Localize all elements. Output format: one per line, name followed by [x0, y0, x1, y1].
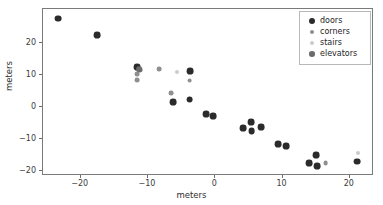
data-point: [275, 140, 282, 147]
data-point: [168, 91, 173, 96]
data-point: [313, 151, 320, 158]
legend-item-elevators[interactable]: elevators: [304, 49, 365, 59]
data-point: [186, 96, 193, 103]
data-point: [313, 162, 320, 169]
data-point: [156, 67, 161, 72]
data-point: [187, 68, 194, 75]
data-point: [356, 151, 360, 155]
y-tick-mark: [39, 106, 42, 107]
legend-item-label: elevators: [320, 49, 357, 59]
y-tick-mark: [39, 170, 42, 171]
legend-marker-icon: [304, 18, 320, 25]
data-point: [55, 15, 62, 22]
y-tick-label: 0: [31, 101, 36, 110]
y-tick-mark: [39, 74, 42, 75]
x-tick-label: −10: [138, 179, 155, 188]
legend-item-label: doors: [320, 16, 342, 26]
legend-marker-icon: [304, 30, 320, 35]
data-point: [169, 99, 176, 106]
data-point: [93, 32, 100, 39]
data-point: [247, 119, 254, 126]
data-point: [323, 160, 328, 165]
x-tick-label: 0: [212, 179, 217, 188]
data-point: [135, 78, 140, 83]
x-tick-mark: [214, 175, 215, 178]
x-axis-label: meters: [0, 190, 383, 200]
data-point: [258, 124, 265, 131]
data-point: [210, 113, 217, 120]
data-point: [305, 160, 312, 167]
y-tick-label: −20: [19, 166, 36, 175]
data-point: [282, 142, 289, 149]
x-tick-mark: [349, 175, 350, 178]
y-tick-mark: [39, 138, 42, 139]
x-tick-mark: [282, 175, 283, 178]
legend-item-stairs[interactable]: stairs: [304, 38, 365, 48]
legend-marker-icon: [304, 51, 320, 57]
y-tick-label: 20: [26, 37, 36, 46]
data-point: [175, 70, 179, 74]
x-tick-label: 20: [344, 179, 354, 188]
x-tick-label: 10: [276, 179, 286, 188]
legend-item-label: corners: [320, 27, 350, 37]
legend-item-label: stairs: [320, 38, 342, 48]
data-point: [135, 72, 140, 77]
scatter-plot-figure: −20−100102020100−10−20 meters meters doo…: [0, 0, 383, 205]
data-point: [354, 158, 361, 165]
x-tick-mark: [147, 175, 148, 178]
legend-marker-icon: [304, 41, 320, 45]
y-axis-label: meters: [4, 61, 14, 91]
data-point: [136, 66, 142, 72]
x-tick-mark: [80, 175, 81, 178]
y-tick-label: 10: [26, 69, 36, 78]
legend-item-corners[interactable]: corners: [304, 27, 365, 37]
data-point: [248, 128, 255, 135]
y-tick-label: −10: [19, 134, 36, 143]
data-point: [240, 125, 247, 132]
x-tick-label: −20: [71, 179, 88, 188]
legend-item-doors[interactable]: doors: [304, 16, 365, 26]
legend: doorscornersstairselevators: [299, 11, 371, 65]
data-point: [187, 78, 192, 83]
y-tick-mark: [39, 42, 42, 43]
